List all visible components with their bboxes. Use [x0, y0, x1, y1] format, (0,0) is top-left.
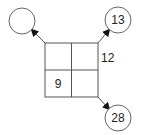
circle-top-left	[9, 8, 35, 34]
circle-top-right-value: 13	[111, 13, 125, 27]
number-grid-diagram: 9 12 13 28	[0, 0, 144, 135]
cell-bottom-left: 9	[55, 77, 62, 91]
side-label: 12	[101, 51, 115, 65]
arrow-top-left	[32, 30, 45, 43]
arrow-top-right	[98, 30, 109, 43]
arrow-bottom-right	[98, 97, 109, 109]
grid-square	[45, 43, 98, 97]
circle-bottom-right-value: 28	[111, 111, 125, 125]
